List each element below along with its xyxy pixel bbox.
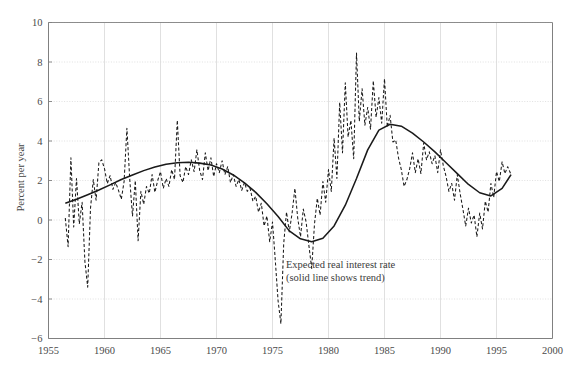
svg-text:8: 8 bbox=[37, 57, 42, 68]
svg-text:4: 4 bbox=[37, 136, 43, 147]
svg-text:1965: 1965 bbox=[150, 345, 171, 356]
chart-container: Percent per year −6−4−20246810 195519601… bbox=[0, 0, 583, 381]
svg-text:1985: 1985 bbox=[374, 345, 395, 356]
svg-text:1970: 1970 bbox=[206, 345, 227, 356]
svg-text:1960: 1960 bbox=[94, 345, 115, 356]
chart-plot: −6−4−20246810 19551960196519701975198019… bbox=[0, 0, 583, 381]
svg-text:(solid line shows trend): (solid line shows trend) bbox=[286, 272, 385, 284]
svg-text:1995: 1995 bbox=[486, 345, 507, 356]
svg-text:10: 10 bbox=[32, 17, 43, 28]
trend-series-line bbox=[65, 124, 511, 242]
svg-text:2000: 2000 bbox=[542, 345, 563, 356]
svg-text:1975: 1975 bbox=[262, 345, 283, 356]
svg-text:1990: 1990 bbox=[430, 345, 451, 356]
svg-text:0: 0 bbox=[37, 215, 42, 226]
svg-text:Expected real interest rate: Expected real interest rate bbox=[286, 259, 396, 270]
svg-text:−2: −2 bbox=[31, 254, 42, 265]
svg-text:−4: −4 bbox=[31, 294, 43, 305]
svg-text:6: 6 bbox=[37, 96, 42, 107]
svg-text:1980: 1980 bbox=[318, 345, 339, 356]
svg-text:2: 2 bbox=[37, 175, 42, 186]
x-tick-labels: 1955196019651970197519801985199019952000 bbox=[38, 345, 563, 356]
svg-text:1955: 1955 bbox=[38, 345, 59, 356]
svg-text:−6: −6 bbox=[31, 333, 42, 344]
chart-annotation: Expected real interest rate(solid line s… bbox=[286, 259, 396, 284]
